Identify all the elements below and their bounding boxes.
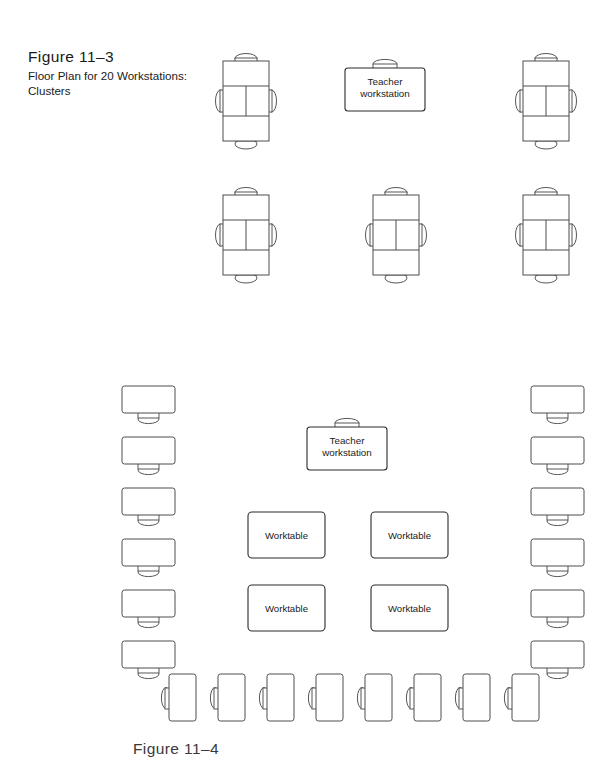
cluster-unit-3[interactable]: [216, 188, 277, 284]
desk-bottom-4[interactable]: [308, 674, 343, 721]
desk-right-5[interactable]: [531, 590, 584, 628]
desk-left-5[interactable]: [122, 590, 175, 628]
teacher-workstation-bottom[interactable]: Teacher workstation: [307, 418, 387, 470]
cluster-unit-5[interactable]: [516, 188, 577, 284]
worktable-grid: Worktable Worktable Worktable Worktable: [248, 512, 448, 631]
teacher-workstation-label-line2: workstation: [359, 88, 410, 99]
worktable-1-label: Worktable: [265, 530, 308, 541]
desk-right-1[interactable]: [531, 386, 584, 424]
left-desk-column: [122, 386, 175, 679]
desk-left-2[interactable]: [122, 437, 175, 475]
desk-left-4[interactable]: [122, 539, 175, 577]
cluster-unit-2[interactable]: [516, 54, 577, 150]
desk-left-3[interactable]: [122, 488, 175, 526]
cluster-row-1: Teacher workstation: [216, 54, 577, 150]
cluster-unit-4[interactable]: [366, 188, 427, 284]
worktable-3-label: Worktable: [265, 603, 308, 614]
desk-bottom-2[interactable]: [210, 674, 245, 721]
desk-right-2[interactable]: [531, 437, 584, 475]
cluster-row-2: [216, 188, 577, 284]
next-figure-number: Figure 11–4: [133, 739, 219, 758]
teacher-workstation-top[interactable]: Teacher workstation: [345, 59, 425, 111]
cluster-unit-1[interactable]: [216, 54, 277, 150]
worktable-2[interactable]: Worktable: [371, 512, 448, 558]
desk-left-1[interactable]: [122, 386, 175, 424]
worktable-4[interactable]: Worktable: [371, 585, 448, 631]
worktable-3[interactable]: Worktable: [248, 585, 325, 631]
desk-bottom-3[interactable]: [259, 674, 294, 721]
right-desk-column: [531, 386, 584, 679]
teacher-workstation-label-line1: Teacher: [368, 76, 404, 87]
desk-right-3[interactable]: [531, 488, 584, 526]
worktable-4-label: Worktable: [388, 603, 431, 614]
worktable-2-label: Worktable: [388, 530, 431, 541]
desk-bottom-8[interactable]: [504, 674, 539, 721]
desk-bottom-5[interactable]: [357, 674, 392, 721]
teacher-workstation-bottom-label-line1: Teacher: [330, 435, 366, 446]
desk-left-6[interactable]: [122, 641, 175, 679]
desk-right-4[interactable]: [531, 539, 584, 577]
desk-right-6[interactable]: [531, 641, 584, 679]
worktable-1[interactable]: Worktable: [248, 512, 325, 558]
desk-bottom-6[interactable]: [406, 674, 441, 721]
bottom-desk-row: [161, 674, 539, 721]
desk-bottom-1[interactable]: [161, 674, 196, 721]
desk-bottom-7[interactable]: [455, 674, 490, 721]
teacher-workstation-bottom-label-line2: workstation: [321, 447, 372, 458]
